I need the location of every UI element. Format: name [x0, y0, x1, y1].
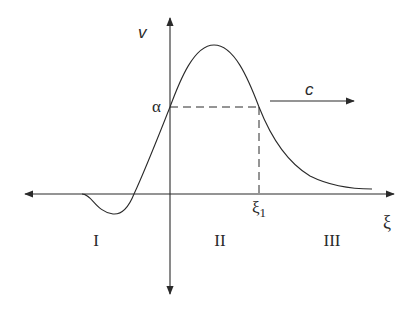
wave-speed-label: c [305, 80, 314, 99]
xi-axis-label: ξ [383, 212, 391, 232]
alpha-label: α [152, 97, 161, 116]
wave-profile-curve [82, 45, 372, 214]
xi1-label: ξ1 [252, 198, 266, 220]
region-label-ii: II [214, 231, 226, 250]
region-label-i: I [93, 231, 99, 250]
xi1-label-subscript: 1 [260, 205, 267, 220]
region-label-iii: III [324, 231, 341, 250]
v-axis-label: v [138, 23, 148, 42]
diagram-canvas: v α c ξ1 ξ I II III [0, 0, 415, 312]
